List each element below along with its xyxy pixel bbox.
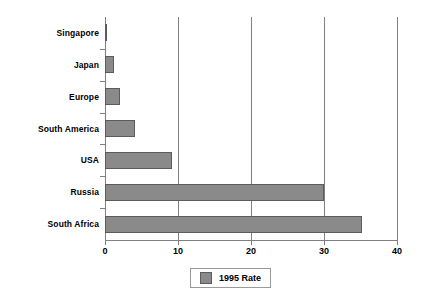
category-label-text: Japan [3, 60, 99, 70]
bar [105, 152, 172, 169]
category-tick [100, 81, 105, 82]
value-tick-label: 10 [158, 246, 198, 257]
chart-legend: 1995 Rate [190, 268, 271, 288]
legend-swatch-1995-rate [200, 272, 212, 284]
gridline [251, 17, 252, 240]
bar-chart: SingaporeJapanEuropeSouth AmericaUSARuss… [0, 0, 423, 303]
plot-area [105, 17, 397, 240]
category-label-text: South America [3, 124, 99, 134]
category-tick [100, 49, 105, 50]
value-tick-label: 0 [85, 246, 125, 257]
value-tick [251, 240, 252, 245]
value-tick [178, 240, 179, 245]
category-label-text: Singapore [3, 28, 99, 38]
bar [105, 88, 120, 105]
category-tick [100, 208, 105, 209]
category-label-text: Russia [3, 187, 99, 197]
legend-label-1995-rate: 1995 Rate [219, 273, 261, 284]
category-label-text: South Africa [3, 219, 99, 229]
gridline [178, 17, 179, 240]
bar [105, 24, 107, 41]
category-tick [100, 176, 105, 177]
bar [105, 120, 135, 137]
category-tick [100, 113, 105, 114]
category-label-text: USA [3, 155, 99, 165]
value-tick [324, 240, 325, 245]
bar [105, 216, 362, 233]
value-tick-label: 30 [304, 246, 344, 257]
category-label-text: Europe [3, 92, 99, 102]
value-tick-label: 20 [231, 246, 271, 257]
gridline [397, 17, 398, 240]
gridline [324, 17, 325, 240]
category-tick [100, 144, 105, 145]
bar [105, 184, 324, 201]
value-tick [105, 240, 106, 245]
bar [105, 56, 114, 73]
value-tick [397, 240, 398, 245]
value-tick-label: 40 [377, 246, 417, 257]
